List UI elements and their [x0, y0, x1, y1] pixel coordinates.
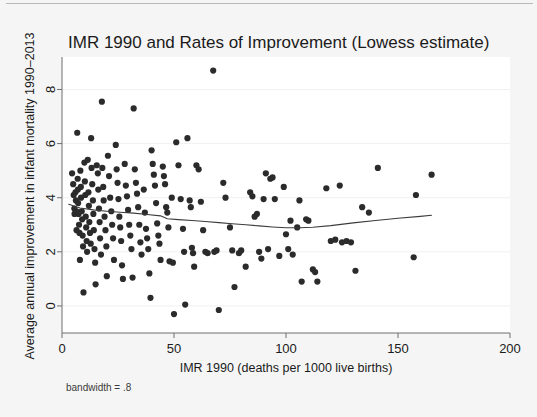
scatter-point [213, 247, 219, 253]
scatter-point [411, 254, 417, 260]
scatter-point [164, 209, 170, 215]
y-tick-label: 0 [43, 302, 58, 309]
scatter-point [135, 204, 141, 210]
scatter-point [189, 245, 195, 251]
scatter-point [210, 67, 216, 73]
scatter-point [305, 218, 311, 224]
scatter-point [125, 207, 131, 213]
scatter-point [104, 273, 110, 279]
scatter-point [312, 269, 318, 275]
scatter-point [94, 162, 100, 168]
scatter-point [127, 232, 133, 238]
scatter-point [276, 253, 282, 259]
scatter-point [366, 209, 372, 215]
x-tick-label: 200 [499, 341, 521, 356]
scatter-point [120, 276, 126, 282]
scatter-point [116, 214, 122, 220]
scatter-point [122, 161, 128, 167]
scatter-point [85, 189, 91, 195]
scatter-point [117, 224, 123, 230]
x-axis-title: IMR 1990 (deaths per 1000 live births) [180, 361, 393, 375]
scatter-point [156, 241, 162, 247]
scatter-point [287, 218, 293, 224]
scatter-point [169, 195, 175, 201]
scatter-point [80, 232, 86, 238]
scatter-point [429, 172, 435, 178]
scatter-point [175, 162, 181, 168]
scatter-point [133, 180, 139, 186]
scatter-point [147, 295, 153, 301]
scatter-point [191, 264, 197, 270]
scatter-point [337, 182, 343, 188]
scatter-point [227, 224, 233, 230]
scatter-point [103, 243, 109, 249]
scatter-point [131, 105, 137, 111]
x-tick-label: 50 [167, 341, 181, 356]
scatter-point [75, 200, 81, 206]
scatter-point [86, 203, 92, 209]
x-axis-ticks-group: 050100150200 [58, 333, 520, 356]
scatter-point [114, 180, 120, 186]
scatter-point [281, 184, 287, 190]
scatter-point [272, 196, 278, 202]
y-tick-label: 4 [43, 194, 58, 201]
scatter-point [243, 264, 249, 270]
scatter-point [190, 250, 196, 256]
scatter-point [163, 204, 169, 210]
scatter-point [91, 227, 97, 233]
scatter-point [88, 241, 94, 247]
scatter-point [92, 260, 98, 266]
scatter-point [124, 193, 130, 199]
scatter-point [83, 214, 89, 220]
scatter-point [154, 220, 160, 226]
scatter-point [119, 262, 125, 268]
scatter-point [114, 166, 120, 172]
scatter-point [110, 235, 116, 241]
scatter-point [196, 166, 202, 172]
scatter-point [76, 222, 82, 228]
scatter-point [413, 192, 419, 198]
scatter-point [101, 197, 107, 203]
scatter-plot-svg: 02468 050100150200 IMR 1990 and Rates of… [0, 0, 537, 417]
scatter-point [261, 196, 267, 202]
scatter-point [283, 231, 289, 237]
scatter-point [171, 311, 177, 317]
scatter-point [162, 181, 168, 187]
scatter-point [75, 176, 81, 182]
scatter-point [113, 142, 119, 148]
scatter-point [188, 204, 194, 210]
scatter-point [220, 180, 226, 186]
scatter-point [256, 249, 262, 255]
scatter-point [115, 196, 121, 202]
scatter-point [78, 184, 84, 190]
scatter-point [134, 191, 140, 197]
scatter-point [143, 226, 149, 232]
scatter-point [182, 301, 188, 307]
scatter-point [83, 224, 89, 230]
scatter-point [231, 284, 237, 290]
scatter-point [141, 186, 147, 192]
scatter-point [91, 246, 97, 252]
scatter-point [153, 200, 159, 206]
y-axis-title: Average annual improvement in infant mor… [23, 32, 37, 359]
scatter-point [99, 165, 105, 171]
scatter-point [150, 161, 156, 167]
scatter-point [111, 257, 117, 263]
scatter-point [93, 281, 99, 287]
scatter-point [254, 211, 260, 217]
scatter-point [332, 237, 338, 243]
scatter-point [85, 157, 91, 163]
scatter-point [89, 181, 95, 187]
scatter-point [70, 181, 76, 187]
scatter-point [178, 196, 184, 202]
scatter-point [161, 173, 167, 179]
scatter-point [74, 130, 80, 136]
scatter-point [198, 199, 204, 205]
scatter-point [145, 246, 151, 252]
scatter-point [118, 238, 124, 244]
scatter-point [205, 250, 211, 256]
scatter-point [181, 249, 187, 255]
scatter-point [84, 249, 90, 255]
scatter-point [99, 99, 105, 105]
scatter-point [90, 211, 96, 217]
